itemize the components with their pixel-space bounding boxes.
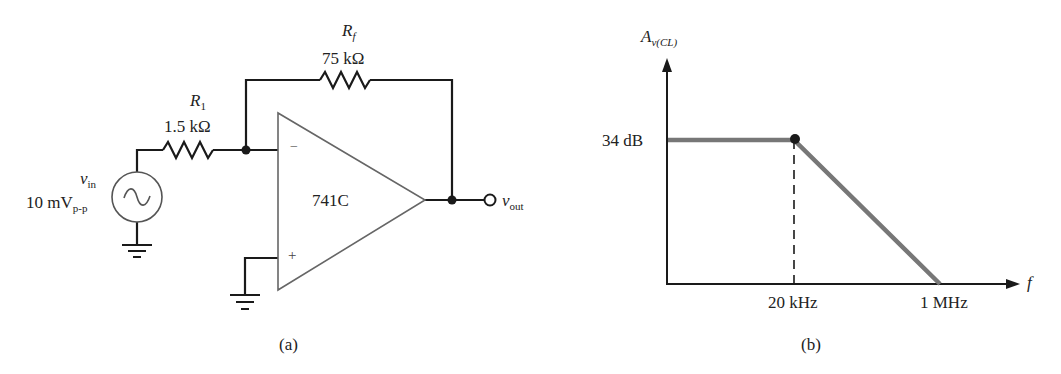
x-axis-arrow-icon <box>1006 279 1020 289</box>
y-axis-label: Av(CL) <box>641 28 677 48</box>
bode-graph <box>662 58 1020 289</box>
inverting-input-sign: − <box>290 140 298 154</box>
caption-a: (a) <box>279 336 298 353</box>
r1-resistor <box>163 142 213 158</box>
output-label: vout <box>502 192 524 212</box>
junction-dot <box>242 146 251 155</box>
junction-dot <box>448 196 457 205</box>
x-axis-label: f <box>1027 274 1032 291</box>
caption-b: (b) <box>801 336 821 353</box>
figure-canvas <box>0 0 1061 374</box>
source-value: 10 mVp-p <box>26 194 87 214</box>
rf-value: 75 kΩ <box>322 50 364 67</box>
y-tick-34db: 34 dB <box>602 132 643 149</box>
ground-icon <box>122 245 260 309</box>
x-tick-1mhz: 1 MHz <box>920 294 968 311</box>
gain-curve <box>668 140 940 284</box>
r1-value: 1.5 kΩ <box>164 118 211 135</box>
ac-source-icon <box>112 172 162 222</box>
source-name: vin <box>80 170 96 190</box>
noninverting-input-sign: + <box>288 248 296 263</box>
corner-frequency-dot <box>790 134 800 144</box>
y-axis-arrow-icon <box>662 58 672 72</box>
x-tick-20khz: 20 kHz <box>768 294 818 311</box>
output-terminal-icon <box>485 195 496 206</box>
r1-name: R1 <box>190 92 206 112</box>
rf-resistor <box>320 72 370 88</box>
opamp-triangle <box>278 113 425 290</box>
rf-name: Rf <box>342 22 355 42</box>
opamp-label: 741C <box>312 192 349 209</box>
